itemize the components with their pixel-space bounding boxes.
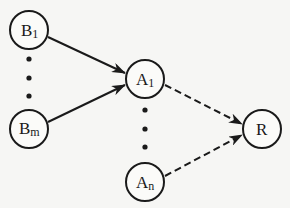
edge-a1-r xyxy=(165,85,242,124)
ellipsis-b xyxy=(26,56,31,98)
node-an: An xyxy=(126,163,164,201)
svg-text:R: R xyxy=(256,120,268,139)
edge-b1-a1 xyxy=(48,37,125,73)
node-b1: B1 xyxy=(10,11,48,49)
node-a1: A1 xyxy=(126,60,164,98)
ellipsis-a xyxy=(142,107,147,149)
edge-bm-a1 xyxy=(48,85,125,122)
node-r: R xyxy=(243,110,281,148)
diagram-canvas: B1 Bm A1 An R xyxy=(0,0,290,208)
edge-an-r xyxy=(165,135,242,176)
graph-svg: B1 Bm A1 An R xyxy=(0,0,290,208)
node-bm: Bm xyxy=(10,110,48,148)
